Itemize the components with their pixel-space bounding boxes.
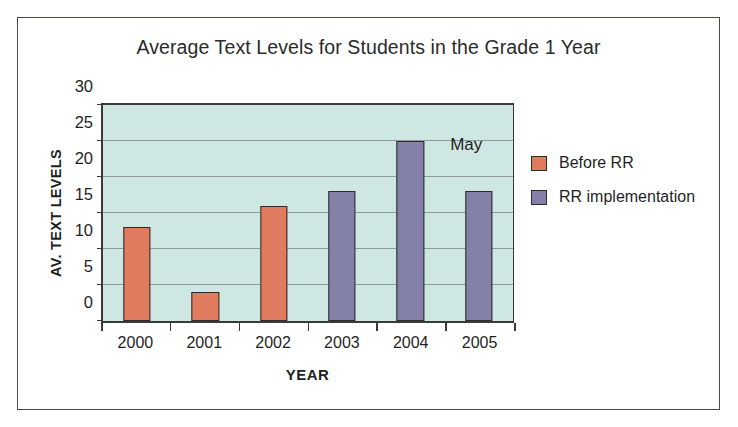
plot-area: 051015202530 May bbox=[101, 103, 514, 323]
x-axis-tick bbox=[514, 323, 516, 331]
bar-slot bbox=[171, 105, 239, 321]
x-axis-tick-label: 2004 bbox=[376, 334, 445, 352]
y-axis-tick-label: 10 bbox=[75, 221, 93, 240]
legend-item-1[interactable]: Before RR bbox=[531, 146, 695, 180]
x-axis-ticks bbox=[101, 323, 514, 331]
legend-label: Before RR bbox=[559, 154, 634, 172]
x-axis-tick bbox=[445, 323, 447, 331]
annotation-may: May bbox=[450, 135, 482, 155]
y-axis-tick-label: 25 bbox=[75, 113, 93, 132]
y-axis-tick-label: 20 bbox=[75, 149, 93, 168]
legend: Before RRRR implementation bbox=[531, 146, 695, 214]
x-axis-tick-label: 2001 bbox=[170, 334, 239, 352]
x-axis-tick-label: 2005 bbox=[445, 334, 514, 352]
bar-2003[interactable] bbox=[328, 191, 355, 321]
x-axis-tick bbox=[239, 323, 241, 331]
bar-slot bbox=[308, 105, 376, 321]
bar-2001[interactable] bbox=[192, 292, 219, 321]
x-axis-tick bbox=[170, 323, 172, 331]
legend-swatch-icon bbox=[531, 190, 547, 205]
x-axis-tick bbox=[308, 323, 310, 331]
legend-swatch-icon bbox=[531, 156, 547, 171]
x-axis-tick-label: 2003 bbox=[307, 334, 376, 352]
bar-2004[interactable] bbox=[397, 141, 424, 321]
legend-label: RR implementation bbox=[559, 188, 695, 206]
x-axis-labels: 200020012002200320042005 bbox=[101, 334, 514, 352]
bar-slot bbox=[240, 105, 308, 321]
legend-item-2[interactable]: RR implementation bbox=[531, 180, 695, 214]
bar-slot bbox=[376, 105, 444, 321]
x-axis-tick-label: 2002 bbox=[239, 334, 308, 352]
y-axis-tick-label: 5 bbox=[84, 257, 93, 276]
bar-2000[interactable] bbox=[123, 227, 150, 321]
chart-title: Average Text Levels for Students in the … bbox=[18, 36, 719, 59]
x-axis-tick-label: 2000 bbox=[101, 334, 170, 352]
y-axis-tick-label: 30 bbox=[75, 77, 93, 96]
x-axis-tick bbox=[101, 323, 103, 331]
bar-slot bbox=[103, 105, 171, 321]
x-axis-tick bbox=[376, 323, 378, 331]
bar-2005[interactable] bbox=[465, 191, 492, 321]
y-axis-tick-label: 0 bbox=[84, 293, 93, 312]
bar-2002[interactable] bbox=[260, 206, 287, 321]
y-axis-tick-label: 15 bbox=[75, 185, 93, 204]
y-axis-title: AV. TEXT LEVELS bbox=[48, 103, 70, 323]
x-axis-title: YEAR bbox=[101, 366, 514, 383]
figure-frame: Average Text Levels for Students in the … bbox=[17, 17, 720, 410]
